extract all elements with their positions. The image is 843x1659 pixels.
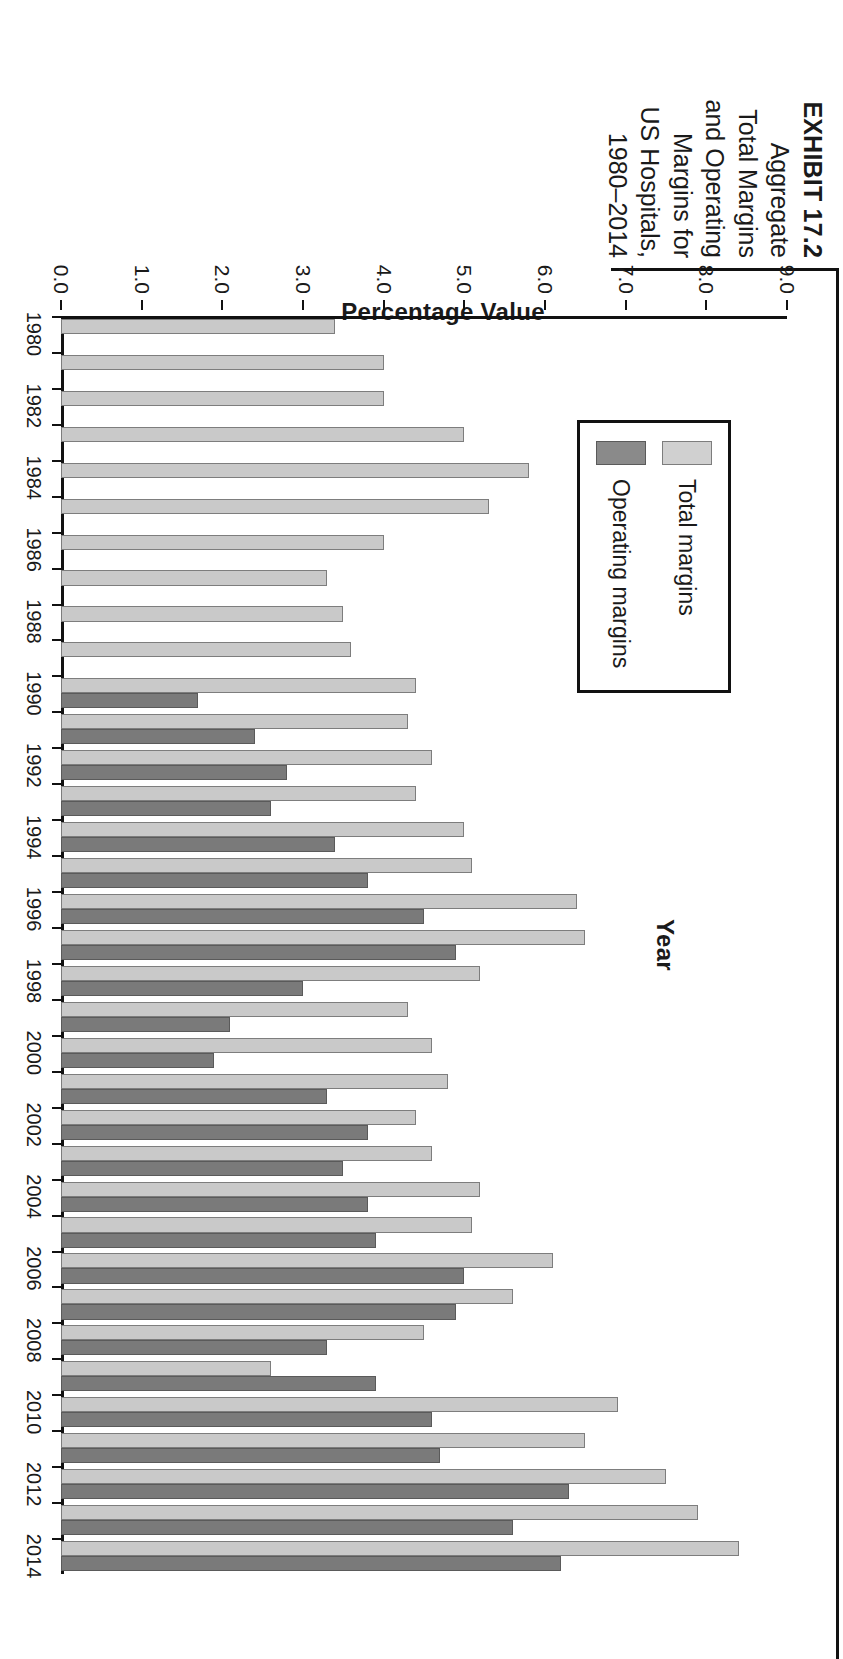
- bar-total-margins-2012: [61, 1469, 666, 1484]
- bar-total-margins-1987: [61, 570, 327, 585]
- y-tick-label: 5.0: [452, 265, 476, 294]
- bar-total-margins-1988: [61, 606, 343, 621]
- bar-total-margins-1990: [61, 678, 416, 693]
- x-tick-label: 1994: [22, 815, 45, 860]
- bar-total-margins-2002: [61, 1110, 416, 1125]
- bar-total-margins-1991: [61, 714, 408, 729]
- bar-total-margins-1997: [61, 930, 585, 945]
- bar-total-margins-1996: [61, 894, 577, 909]
- y-tick-label: 8.0: [694, 265, 718, 294]
- x-tick-label: 1984: [22, 455, 45, 500]
- x-tick-mark: [52, 460, 61, 462]
- caption-line-5: US Hospitals,: [634, 0, 667, 258]
- caption-line-1: Aggregate: [764, 0, 797, 258]
- x-tick-mark: [52, 568, 61, 570]
- bar-total-margins-2008: [61, 1325, 424, 1340]
- x-tick-label: 1986: [22, 527, 45, 572]
- bar-total-margins-2000: [61, 1038, 432, 1053]
- bar-total-margins-1995: [61, 858, 472, 873]
- bar-operating-margins-1998: [61, 981, 303, 996]
- y-tick-mark: [302, 300, 304, 310]
- bar-operating-margins-2008: [61, 1340, 327, 1355]
- x-tick-label: 1998: [22, 959, 45, 1004]
- x-tick-mark: [52, 999, 61, 1001]
- rotated-page-wrapper: EXHIBIT 17.2 Aggregate Total Margins and…: [0, 0, 843, 1659]
- caption-line-6: 1980–2014: [602, 0, 635, 258]
- x-tick-mark: [52, 532, 61, 534]
- bar-total-margins-1986: [61, 535, 384, 550]
- x-tick-label: 2010: [22, 1390, 45, 1435]
- bar-total-margins-2010: [61, 1397, 618, 1412]
- x-tick-label: 1980: [22, 312, 45, 357]
- bar-total-margins-1993: [61, 786, 416, 801]
- bar-total-margins-1999: [61, 1002, 408, 1017]
- x-tick-mark: [52, 747, 61, 749]
- x-tick-mark: [52, 604, 61, 606]
- y-tick-label: 1.0: [130, 265, 154, 294]
- legend-label-operating-margins: Operating margins: [608, 479, 635, 668]
- y-tick-mark: [383, 300, 385, 310]
- bar-total-margins-1998: [61, 966, 480, 981]
- x-tick-label: 2008: [22, 1318, 45, 1363]
- y-tick-label: 2.0: [210, 265, 234, 294]
- x-tick-mark: [52, 1466, 61, 1468]
- x-tick-mark: [52, 783, 61, 785]
- x-tick-label: 2014: [22, 1534, 45, 1579]
- x-tick-mark: [52, 675, 61, 677]
- bar-operating-margins-2004: [61, 1197, 368, 1212]
- bar-total-margins-1992: [61, 750, 432, 765]
- x-tick-mark: [52, 1286, 61, 1288]
- x-tick-mark: [52, 1215, 61, 1217]
- x-tick-mark: [52, 1394, 61, 1396]
- y-tick-mark: [221, 300, 223, 310]
- x-tick-label: 1990: [22, 671, 45, 716]
- caption-line-2: Total Margins: [732, 0, 765, 258]
- bar-operating-margins-2009: [61, 1376, 376, 1391]
- y-tick-label: 3.0: [291, 265, 315, 294]
- x-tick-mark: [52, 819, 61, 821]
- x-tick-mark: [52, 963, 61, 965]
- y-tick-label: 9.0: [775, 265, 799, 294]
- bar-operating-margins-2001: [61, 1089, 327, 1104]
- bar-operating-margins-2010: [61, 1412, 432, 1427]
- y-tick-mark: [60, 300, 62, 310]
- exhibit-figure: EXHIBIT 17.2 Aggregate Total Margins and…: [0, 0, 843, 1659]
- bar-total-margins-2005: [61, 1217, 472, 1232]
- x-tick-mark: [52, 1358, 61, 1360]
- legend-item-operating-margins: Operating margins: [596, 441, 646, 668]
- x-tick-label: 1996: [22, 887, 45, 932]
- legend-item-total-margins: Total margins: [662, 441, 712, 668]
- x-tick-mark: [52, 711, 61, 713]
- x-axis-ticks: 1980198219841986198819901992199419961998…: [0, 316, 61, 1574]
- y-tick-mark: [625, 300, 627, 310]
- bar-total-margins-2006: [61, 1253, 553, 1268]
- x-tick-mark: [52, 891, 61, 893]
- bar-operating-margins-2002: [61, 1125, 368, 1140]
- y-tick-mark: [463, 300, 465, 310]
- x-tick-mark: [52, 1251, 61, 1253]
- bar-total-margins-2013: [61, 1505, 698, 1520]
- x-tick-label: 2000: [22, 1031, 45, 1076]
- x-tick-mark: [52, 1502, 61, 1504]
- x-tick-mark: [52, 1107, 61, 1109]
- bar-total-margins-2004: [61, 1182, 480, 1197]
- bar-total-margins-1981: [61, 355, 384, 370]
- caption-line-4: Margins for: [667, 0, 700, 258]
- bar-total-margins-2014: [61, 1541, 739, 1556]
- x-tick-label: 2004: [22, 1174, 45, 1219]
- bar-operating-margins-2012: [61, 1484, 569, 1499]
- bar-total-margins-1982: [61, 391, 384, 406]
- x-tick-mark: [52, 639, 61, 641]
- x-tick-mark: [52, 1143, 61, 1145]
- x-tick-mark: [52, 1035, 61, 1037]
- bar-total-margins-2009: [61, 1361, 271, 1376]
- x-tick-mark: [52, 496, 61, 498]
- bar-total-margins-1985: [61, 499, 489, 514]
- y-tick-label: 7.0: [614, 265, 638, 294]
- bar-total-margins-2003: [61, 1146, 432, 1161]
- bar-total-margins-1989: [61, 642, 351, 657]
- x-tick-label: 1988: [22, 599, 45, 644]
- plot-area: Percentage Value 0.01.02.03.04.05.06.07.…: [61, 316, 787, 1574]
- bar-total-margins-1983: [61, 427, 464, 442]
- exhibit-caption: EXHIBIT 17.2 Aggregate Total Margins and…: [602, 0, 830, 258]
